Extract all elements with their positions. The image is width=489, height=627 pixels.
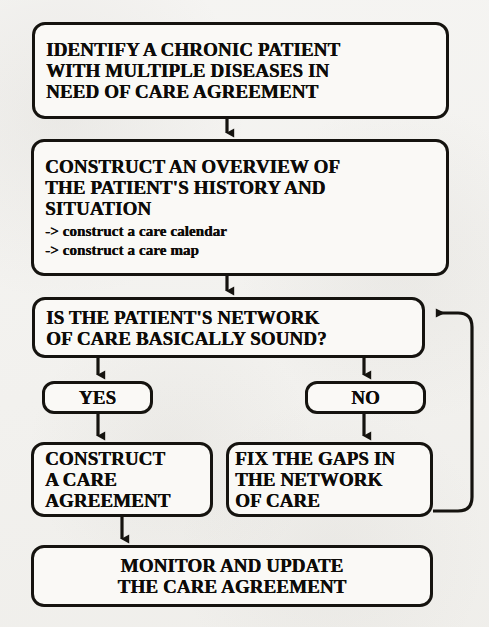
flowchart-node-no[interactable]: NO (305, 381, 426, 414)
node-overview-line-3: SITUATION (34, 198, 446, 219)
node-overview-line-1: CONSTRUCT AN OVERVIEW OF (34, 156, 446, 177)
connector-fix-gaps-to-decision-feedback (433, 313, 472, 511)
flowchart-node-overview[interactable]: CONSTRUCT AN OVERVIEW OF THE PATIENT'S H… (31, 139, 449, 276)
node-decision-line-2: OF CARE BASICALLY SOUND? (35, 328, 422, 349)
node-monitor-line-1: MONITOR AND UPDATE (121, 555, 344, 576)
node-yes-label: YES (45, 387, 150, 408)
node-construct-agreement-line-1: CONSTRUCT (34, 448, 210, 469)
flowchart-node-construct-agreement[interactable]: CONSTRUCT A CARE AGREEMENT (31, 442, 213, 517)
flowchart-diagram: IDENTIFY A CHRONIC PATIENT WITH MULTIPLE… (0, 0, 489, 627)
node-identify-line-3: NEED OF CARE AGREEMENT (35, 81, 446, 102)
node-construct-agreement-line-2: A CARE (34, 469, 210, 490)
node-decision-line-1: IS THE PATIENT'S NETWORK (35, 307, 422, 328)
node-fix-gaps-line-1: FIX THE GAPS IN (229, 448, 430, 469)
flowchart-node-decision[interactable]: IS THE PATIENT'S NETWORK OF CARE BASICAL… (32, 297, 425, 358)
node-identify-line-1: IDENTIFY A CHRONIC PATIENT (35, 39, 446, 60)
node-overview-line-2: THE PATIENT'S HISTORY AND (34, 177, 446, 198)
flowchart-node-identify[interactable]: IDENTIFY A CHRONIC PATIENT WITH MULTIPLE… (32, 22, 449, 119)
node-fix-gaps-line-2: THE NETWORK (229, 469, 430, 490)
flowchart-node-monitor[interactable]: MONITOR AND UPDATE THE CARE AGREEMENT (31, 545, 433, 607)
node-no-label: NO (308, 387, 423, 408)
flowchart-node-yes[interactable]: YES (42, 381, 153, 414)
node-monitor-line-2: THE CARE AGREEMENT (118, 576, 347, 597)
node-overview-sub-line-1: -> construct a care calendar (34, 219, 446, 241)
node-overview-sub-line-2: -> construct a care map (34, 241, 446, 260)
flowchart-node-fix-gaps[interactable]: FIX THE GAPS IN THE NETWORK OF CARE (226, 442, 433, 517)
node-fix-gaps-line-3: OF CARE (229, 490, 430, 511)
node-identify-line-2: WITH MULTIPLE DISEASES IN (35, 60, 446, 81)
node-construct-agreement-line-3: AGREEMENT (34, 490, 210, 511)
